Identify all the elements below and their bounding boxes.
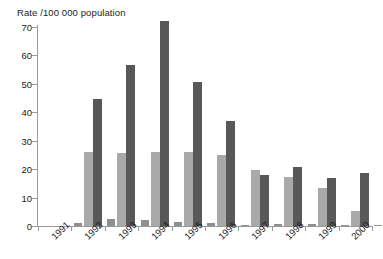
bar-series-2 — [151, 152, 160, 226]
bar-series-2 — [184, 152, 193, 226]
y-tick-label: 60 — [4, 50, 32, 61]
chart-axis-title: Rate /100 000 population — [17, 7, 126, 18]
y-tick-mark — [32, 27, 37, 28]
bar-series-3 — [93, 99, 102, 226]
y-tick-mark — [32, 84, 37, 85]
x-tick-mark — [339, 226, 340, 231]
bar-series-3 — [126, 65, 135, 226]
y-tick-mark — [32, 141, 37, 142]
bar-series-2 — [284, 177, 293, 226]
bar-series-1 — [374, 225, 382, 226]
bar-series-2 — [217, 155, 226, 226]
bar-series-1 — [74, 223, 82, 226]
y-tick-label: 20 — [4, 164, 32, 175]
x-tick-mark — [272, 226, 273, 231]
bar-series-1 — [274, 224, 282, 226]
bar-series-1 — [141, 220, 149, 226]
y-tick-mark — [32, 198, 37, 199]
y-tick-label: 30 — [4, 135, 32, 146]
bar-series-1 — [308, 224, 316, 226]
bar-series-1 — [107, 219, 115, 226]
y-tick-mark — [32, 112, 37, 113]
y-tick-label: 70 — [4, 22, 32, 33]
y-tick-mark — [32, 226, 37, 227]
bar-series-3 — [360, 173, 369, 226]
bar-series-1 — [207, 223, 215, 226]
bar-series-3 — [226, 121, 235, 226]
bar-series-2 — [117, 153, 126, 226]
y-tick-label: 40 — [4, 107, 32, 118]
x-tick-mark — [105, 226, 106, 231]
plot-area — [38, 19, 372, 226]
x-tick-mark — [205, 226, 206, 231]
bar-series-3 — [193, 82, 202, 226]
x-tick-mark — [172, 226, 173, 231]
bar-series-1 — [241, 225, 249, 226]
y-tick-label: 0 — [4, 221, 32, 232]
bar-series-3 — [160, 21, 169, 226]
x-tick-mark — [372, 226, 373, 231]
bar-series-1 — [341, 225, 349, 226]
chart-container: Rate /100 000 population 010203040506070… — [0, 0, 383, 259]
y-tick-mark — [32, 169, 37, 170]
y-tick-label: 10 — [4, 192, 32, 203]
bar-series-2 — [251, 170, 260, 226]
x-tick-mark — [38, 226, 39, 231]
y-tick-label: 50 — [4, 78, 32, 89]
bar-series-2 — [318, 188, 327, 226]
bar-series-3 — [293, 167, 302, 226]
y-tick-mark — [32, 55, 37, 56]
bar-series-2 — [84, 152, 93, 226]
bar-series-1 — [174, 222, 182, 226]
